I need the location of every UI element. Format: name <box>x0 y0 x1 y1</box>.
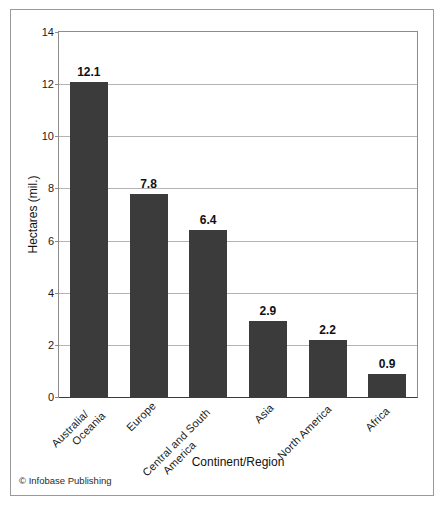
copyright-notice: © Infobase Publishing <box>19 475 112 486</box>
bar-value-label: 0.9 <box>379 357 396 371</box>
y-axis-tick-mark <box>55 241 59 242</box>
y-axis-tick-label: 2 <box>48 339 54 351</box>
x-axis-tick-label: Australia/Oceania <box>49 401 108 460</box>
x-axis-tick-label: North America <box>275 403 334 462</box>
y-axis-tick-label: 6 <box>48 235 54 247</box>
y-axis-tick-label: 8 <box>48 182 54 194</box>
gridline <box>59 188 417 189</box>
gridline <box>59 293 417 294</box>
y-axis-tick-mark <box>55 397 59 398</box>
bar-value-label: 7.8 <box>140 177 157 191</box>
x-axis-tick-label-line: Asia <box>252 402 276 426</box>
chart-figure: 1412108642012.1Australia/Oceania7.8Europ… <box>10 9 434 496</box>
bar-value-label: 2.2 <box>319 323 336 337</box>
y-axis-tick-mark <box>55 32 59 33</box>
x-axis-tick-label-line: North America <box>275 403 334 462</box>
x-axis-tick-label: Central and SouthAmerica <box>140 406 222 488</box>
y-axis-tick-mark <box>55 345 59 346</box>
bar: 2.9 <box>249 321 287 397</box>
bar-value-label: 6.4 <box>200 213 217 227</box>
bar: 7.8 <box>130 194 168 397</box>
bar: 2.2 <box>309 340 347 397</box>
y-axis-tick-label: 14 <box>42 26 54 38</box>
y-axis-tick-mark <box>55 84 59 85</box>
gridline <box>59 345 417 346</box>
x-axis-tick-label-line: Africa <box>363 405 392 434</box>
y-axis-tick-label: 12 <box>42 78 54 90</box>
gridline <box>59 241 417 242</box>
y-axis-title: Hectares (mil.) <box>25 31 41 398</box>
bar-value-label: 2.9 <box>259 304 276 318</box>
bar-value-label: 12.1 <box>77 65 100 79</box>
bar: 12.1 <box>70 82 108 397</box>
gridline <box>59 136 417 137</box>
y-axis-tick-label: 10 <box>42 130 54 142</box>
bar: 0.9 <box>368 374 406 397</box>
x-axis-tick-label: Africa <box>363 405 392 434</box>
x-axis-tick-label: Asia <box>252 402 277 427</box>
y-axis-tick-mark <box>55 136 59 137</box>
x-axis-tick-label-line: Europe <box>124 400 158 434</box>
bar: 6.4 <box>189 230 227 397</box>
y-axis-tick-mark <box>55 293 59 294</box>
y-axis-tick-mark <box>55 188 59 189</box>
gridline <box>59 84 417 85</box>
x-axis-tick-label: Europe <box>124 400 159 435</box>
y-axis-tick-label: 0 <box>48 391 54 403</box>
plot-area: 1412108642012.1Australia/Oceania7.8Europ… <box>58 31 418 398</box>
y-axis-title-text: Hectares (mil.) <box>25 31 41 398</box>
y-axis-tick-label: 4 <box>48 287 54 299</box>
x-axis-title: Continent/Region <box>58 455 418 469</box>
